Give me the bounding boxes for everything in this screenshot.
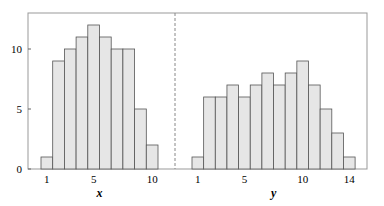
histogram-bar xyxy=(204,97,216,169)
histogram-bar xyxy=(285,73,297,169)
histogram-bar xyxy=(215,97,227,169)
histogram-bar xyxy=(227,85,239,169)
x-axis-label: y xyxy=(269,186,277,200)
histogram-bar xyxy=(250,85,262,169)
x-tick-label: 1 xyxy=(195,173,201,185)
histogram-bar xyxy=(88,25,100,169)
histogram-bar xyxy=(41,157,53,169)
y-tick-label: 0 xyxy=(17,163,23,175)
x-tick-label: 5 xyxy=(242,173,248,185)
histogram-bar xyxy=(123,49,135,169)
histogram-bar xyxy=(64,49,76,169)
histogram-bar xyxy=(76,37,88,169)
histogram-bar xyxy=(297,61,309,169)
histogram-bar xyxy=(309,85,321,169)
histogram-bar xyxy=(320,109,332,169)
histogram-bar xyxy=(100,37,112,169)
x-tick-label: 14 xyxy=(344,173,356,185)
histogram-bar xyxy=(274,85,286,169)
histogram-bar xyxy=(343,157,355,169)
histogram-bar xyxy=(53,61,65,169)
y-tick-label: 5 xyxy=(17,103,23,115)
x-tick-label: 10 xyxy=(297,173,309,185)
histogram-bar xyxy=(192,157,204,169)
x-axis-label: x xyxy=(96,186,103,200)
x-tick-label: 10 xyxy=(147,173,159,185)
x-tick-label: 1 xyxy=(44,173,50,185)
histogram-bar xyxy=(262,73,274,169)
y-tick-label: 10 xyxy=(11,43,23,55)
histogram-bar xyxy=(239,97,251,169)
histogram-bar xyxy=(111,49,123,169)
histogram-bar xyxy=(332,133,344,169)
histogram-bar xyxy=(135,109,147,169)
histogram-bar xyxy=(146,145,158,169)
x-tick-label: 5 xyxy=(91,173,97,185)
histogram-chart: 05101510x151014y xyxy=(0,0,384,206)
